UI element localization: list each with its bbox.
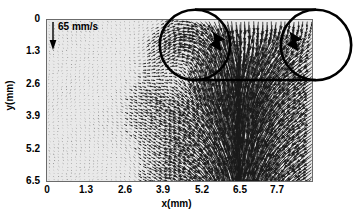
y-tick-5.2: 5.2 [0, 143, 40, 154]
x-tick-3.9: 3.9 [145, 184, 181, 195]
x-tick-1.3: 1.3 [68, 184, 104, 195]
y-axis-label: y(mm) [4, 61, 15, 131]
y-tick-0: 0 [0, 13, 40, 24]
scale-reference: 65 mm/s [46, 19, 136, 55]
y-tick-1.3: 1.3 [0, 45, 40, 56]
x-axis-label: x(mm) [0, 198, 353, 209]
x-tick-2.6: 2.6 [107, 184, 143, 195]
scale-reference-label: 65 mm/s [58, 21, 98, 33]
x-tick-6.5: 6.5 [222, 184, 258, 195]
piv-vector-field-figure: 0 1.3 2.6 3.9 5.2 6.5 0 1.3 2.6 3.9 5.2 … [0, 0, 353, 218]
x-tick-5.2: 5.2 [184, 184, 220, 195]
x-tick-0: 0 [29, 184, 65, 195]
x-tick-7.7: 7.7 [259, 184, 295, 195]
